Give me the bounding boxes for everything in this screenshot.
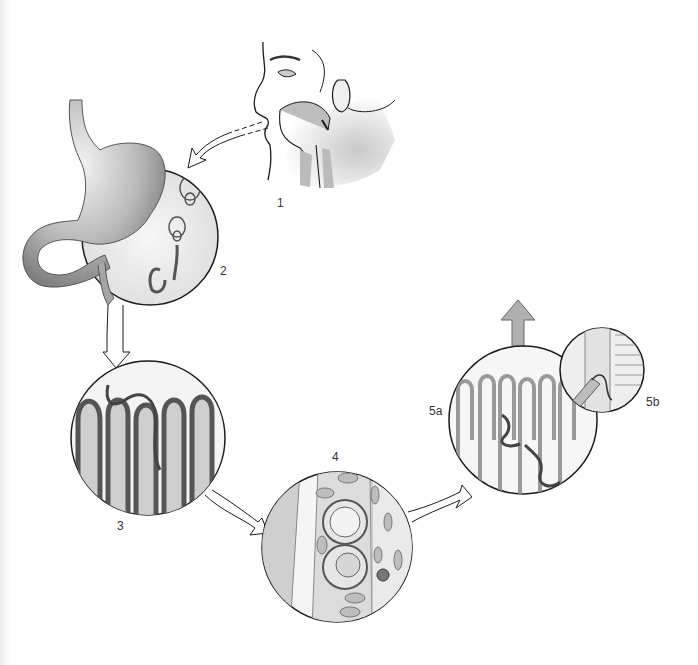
stage-label-5b: 5b xyxy=(646,396,659,408)
arrow-4-to-5a xyxy=(408,485,472,522)
life-cycle-diagram xyxy=(0,0,698,665)
arrow-2-to-3 xyxy=(103,305,130,368)
stage-label-3: 3 xyxy=(117,520,124,532)
stage-label-1: 1 xyxy=(277,197,284,209)
stage-2-stomach-illustration xyxy=(23,100,218,305)
stage-label-2: 2 xyxy=(220,265,227,277)
stage-label-4: 4 xyxy=(332,451,339,463)
stage-4-tissue-illustration xyxy=(262,470,415,630)
stage-label-5a: 5a xyxy=(429,405,442,417)
arrow-1-to-2 xyxy=(188,122,268,168)
stage-1-head-illustration xyxy=(254,42,395,188)
arrow-3-to-4 xyxy=(205,490,268,535)
stage-3-villi-illustration xyxy=(71,361,225,520)
